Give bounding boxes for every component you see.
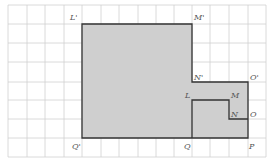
vertex-label: L' (69, 13, 78, 22)
vertex-label: L (184, 91, 190, 100)
vertex-label: O (250, 110, 257, 119)
outer-shape (82, 24, 248, 138)
vertex-label: P (248, 142, 255, 151)
vertex-label: Q (184, 142, 191, 151)
vertex-label: Q' (72, 142, 81, 151)
vertex-label: M' (193, 13, 204, 22)
diagram-canvas: L'M'N'O'LMNOQ'QP (0, 0, 270, 163)
vertex-label: N' (193, 73, 203, 82)
vertex-label: N (230, 110, 239, 119)
vertex-label: O' (250, 73, 259, 82)
vertex-label: M (230, 91, 240, 100)
